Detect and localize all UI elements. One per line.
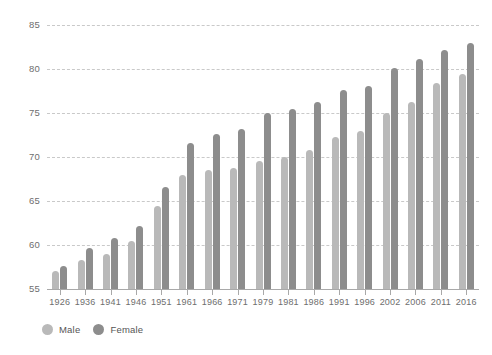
x-axis-tick bbox=[415, 289, 416, 295]
bar-female-1971 bbox=[238, 129, 245, 289]
bar-female-2016 bbox=[467, 43, 474, 289]
x-axis-tick bbox=[263, 289, 264, 295]
x-axis-tick bbox=[441, 289, 442, 295]
bar-group bbox=[281, 25, 296, 289]
x-axis-tick bbox=[238, 289, 239, 295]
bar-group bbox=[433, 25, 448, 289]
y-axis-tick-label: 60 bbox=[14, 239, 40, 250]
bar-male-1971 bbox=[230, 168, 237, 289]
bar-male-1986 bbox=[306, 150, 313, 289]
y-axis-tick-label: 70 bbox=[14, 151, 40, 162]
bar-male-1991 bbox=[332, 137, 339, 289]
legend-swatch-icon bbox=[93, 324, 104, 335]
bar-female-1996 bbox=[365, 86, 372, 289]
bar-female-1986 bbox=[314, 102, 321, 289]
bar-male-2006 bbox=[408, 102, 415, 289]
bar-female-1951 bbox=[162, 187, 169, 289]
bar-female-1981 bbox=[289, 109, 296, 289]
x-axis-tick bbox=[161, 289, 162, 295]
bar-group bbox=[52, 25, 67, 289]
bar-female-2002 bbox=[391, 68, 398, 289]
bar-group bbox=[230, 25, 245, 289]
bar-female-1961 bbox=[187, 143, 194, 289]
bar-female-2006 bbox=[416, 59, 423, 289]
bar-female-1979 bbox=[264, 113, 271, 289]
x-axis-tick bbox=[187, 289, 188, 295]
bar-group bbox=[78, 25, 93, 289]
bar-female-2011 bbox=[441, 50, 448, 289]
bar-group bbox=[179, 25, 194, 289]
bar-female-1966 bbox=[213, 134, 220, 289]
y-axis-tick-label: 55 bbox=[14, 283, 40, 294]
legend-swatch-icon bbox=[42, 324, 53, 335]
bar-female-1936 bbox=[86, 248, 93, 289]
legend-label: Female bbox=[110, 324, 143, 335]
bar-group bbox=[306, 25, 321, 289]
x-axis-tick bbox=[314, 289, 315, 295]
bar-male-1951 bbox=[154, 206, 161, 289]
bar-group bbox=[256, 25, 271, 289]
x-axis: 1926193619411946195119611966197119791981… bbox=[47, 289, 479, 319]
y-axis-tick-label: 80 bbox=[14, 63, 40, 74]
x-axis-tick bbox=[111, 289, 112, 295]
bar-male-1946 bbox=[128, 241, 135, 289]
legend-label: Male bbox=[59, 324, 80, 335]
bar-male-1996 bbox=[357, 131, 364, 289]
bar-male-1981 bbox=[281, 157, 288, 289]
bar-female-1991 bbox=[340, 90, 347, 289]
chart-legend: MaleFemale bbox=[42, 324, 143, 335]
bar-female-1946 bbox=[136, 226, 143, 289]
x-axis-tick bbox=[339, 289, 340, 295]
y-axis-tick-label: 75 bbox=[14, 107, 40, 118]
x-axis-tick bbox=[365, 289, 366, 295]
bar-male-1926 bbox=[52, 271, 59, 289]
x-axis-tick bbox=[390, 289, 391, 295]
x-axis-tick bbox=[60, 289, 61, 295]
y-axis-tick-label: 65 bbox=[14, 195, 40, 206]
bar-group bbox=[154, 25, 169, 289]
x-axis-tick bbox=[85, 289, 86, 295]
bar-male-1936 bbox=[78, 260, 85, 289]
x-axis-tick bbox=[136, 289, 137, 295]
bar-male-1941 bbox=[103, 254, 110, 289]
x-axis-tick bbox=[288, 289, 289, 295]
bar-male-2016 bbox=[459, 74, 466, 289]
bar-group bbox=[332, 25, 347, 289]
bar-male-1961 bbox=[179, 175, 186, 289]
bar-group bbox=[205, 25, 220, 289]
bar-female-1926 bbox=[60, 266, 67, 289]
x-axis-tick bbox=[212, 289, 213, 295]
x-axis-tick-label: 2016 bbox=[446, 297, 486, 307]
bar-chart: 55606570758085 1926193619411946195119611… bbox=[0, 0, 492, 355]
plot-area bbox=[47, 25, 479, 289]
bar-male-1966 bbox=[205, 170, 212, 289]
x-axis-tick bbox=[466, 289, 467, 295]
bar-group bbox=[383, 25, 398, 289]
bar-group bbox=[128, 25, 143, 289]
bar-group bbox=[103, 25, 118, 289]
legend-item-female[interactable]: Female bbox=[93, 324, 143, 335]
bar-group bbox=[459, 25, 474, 289]
legend-item-male[interactable]: Male bbox=[42, 324, 80, 335]
bar-group bbox=[408, 25, 423, 289]
bar-male-1979 bbox=[256, 161, 263, 289]
bar-male-2002 bbox=[383, 113, 390, 289]
y-axis: 55606570758085 bbox=[8, 25, 40, 289]
y-axis-tick-label: 85 bbox=[14, 19, 40, 30]
bar-male-2011 bbox=[433, 83, 440, 289]
bar-female-1941 bbox=[111, 238, 118, 289]
bar-group bbox=[357, 25, 372, 289]
